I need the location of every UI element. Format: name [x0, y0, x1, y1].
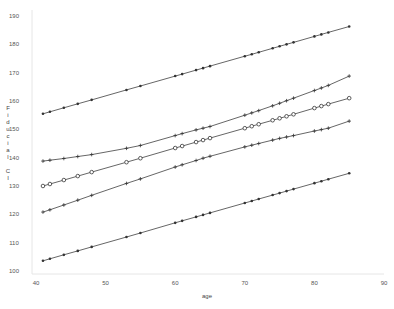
- y-tick-label: 160: [9, 98, 20, 104]
- circle-marker-icon: [243, 126, 247, 130]
- circle-marker-icon: [201, 138, 205, 142]
- dot-marker-icon: [320, 180, 323, 183]
- y-axis-title-letter: i: [7, 140, 8, 146]
- plus-marker-icon: [139, 177, 143, 181]
- circle-marker-icon: [250, 124, 254, 128]
- series-line: [43, 121, 349, 212]
- circle-marker-icon: [194, 140, 198, 144]
- plus-marker-icon: [48, 158, 52, 162]
- plus-marker-icon: [173, 165, 177, 169]
- dot-marker-icon: [250, 53, 253, 56]
- dot-marker-icon: [49, 258, 52, 261]
- plus-marker-icon: [327, 84, 331, 88]
- circle-marker-icon: [125, 160, 129, 164]
- circle-marker-icon: [257, 122, 261, 126]
- dot-marker-icon: [285, 190, 288, 193]
- circle-marker-icon: [292, 113, 296, 117]
- plus-marker-icon: [292, 96, 296, 100]
- y-tick-label: 110: [9, 240, 19, 246]
- plus-marker-icon: [62, 157, 66, 161]
- dot-marker-icon: [292, 41, 295, 44]
- dot-marker-icon: [257, 198, 260, 201]
- plus-marker-icon: [48, 208, 52, 212]
- plus-marker-icon: [194, 159, 198, 163]
- plus-marker-icon: [271, 138, 275, 142]
- dot-marker-icon: [195, 216, 198, 219]
- x-tick-label: 80: [311, 280, 318, 286]
- y-axis-title-letter: C: [6, 168, 11, 174]
- series-5: [42, 172, 351, 262]
- dot-marker-icon: [139, 85, 142, 88]
- dot-marker-icon: [76, 103, 79, 106]
- y-tick-label: 120: [9, 211, 20, 217]
- plus-marker-icon: [41, 159, 45, 163]
- y-axis-ticks: 100110120130140150160170180190: [9, 13, 20, 274]
- dot-marker-icon: [348, 172, 351, 175]
- plus-marker-icon: [76, 155, 80, 159]
- y-axis-title-letter: u: [6, 126, 9, 132]
- plus-marker-icon: [208, 154, 212, 158]
- plus-marker-icon: [208, 125, 212, 129]
- circle-marker-icon: [208, 136, 212, 140]
- fiducial-ci-chart: 100110120130140150160170180190 405060708…: [0, 0, 394, 309]
- y-axis-title-letter: i: [7, 112, 8, 118]
- plus-marker-icon: [257, 109, 261, 113]
- plus-marker-icon: [180, 163, 184, 167]
- dot-marker-icon: [174, 75, 177, 78]
- series-1: [42, 25, 351, 115]
- axes: [32, 10, 384, 274]
- dot-marker-icon: [313, 182, 316, 185]
- dot-marker-icon: [202, 67, 205, 70]
- circle-marker-icon: [48, 182, 52, 186]
- y-tick-label: 170: [9, 70, 20, 76]
- dot-marker-icon: [292, 188, 295, 191]
- dot-marker-icon: [125, 236, 128, 239]
- circle-marker-icon: [320, 104, 324, 108]
- circle-marker-icon: [278, 116, 282, 120]
- plus-marker-icon: [327, 126, 331, 130]
- y-axis-title-letter: l: [7, 154, 8, 160]
- x-tick-label: 60: [172, 280, 179, 286]
- dot-marker-icon: [285, 43, 288, 46]
- plus-marker-icon: [271, 104, 275, 108]
- plus-marker-icon: [285, 135, 289, 139]
- plus-marker-icon: [173, 134, 177, 138]
- dot-marker-icon: [348, 25, 351, 28]
- dot-marker-icon: [174, 222, 177, 225]
- dot-marker-icon: [320, 33, 323, 36]
- plus-marker-icon: [347, 119, 351, 123]
- dot-marker-icon: [327, 178, 330, 181]
- dot-marker-icon: [250, 200, 253, 203]
- series-group: [41, 25, 351, 262]
- plus-marker-icon: [62, 203, 66, 207]
- plus-marker-icon: [194, 128, 198, 132]
- dot-marker-icon: [313, 35, 316, 38]
- circle-marker-icon: [62, 178, 66, 182]
- circle-marker-icon: [271, 118, 275, 122]
- dot-marker-icon: [90, 99, 93, 102]
- x-tick-label: 90: [381, 280, 388, 286]
- plus-marker-icon: [125, 147, 129, 151]
- plus-marker-icon: [278, 101, 282, 105]
- x-tick-label: 70: [241, 280, 248, 286]
- plus-marker-icon: [292, 134, 296, 138]
- circle-marker-icon: [139, 156, 143, 160]
- circle-marker-icon: [313, 106, 317, 110]
- dot-marker-icon: [244, 202, 247, 205]
- y-axis-title-letter: d: [6, 119, 9, 125]
- plus-marker-icon: [201, 156, 205, 160]
- circle-marker-icon: [41, 184, 45, 188]
- dot-marker-icon: [257, 51, 260, 54]
- dot-marker-icon: [271, 194, 274, 197]
- y-tick-label: 150: [9, 126, 20, 132]
- plus-marker-icon: [313, 89, 317, 93]
- plus-marker-icon: [320, 128, 324, 132]
- plus-marker-icon: [201, 126, 205, 130]
- series-3: [41, 96, 351, 187]
- plus-marker-icon: [243, 145, 247, 149]
- circle-marker-icon: [285, 115, 289, 119]
- dot-marker-icon: [209, 65, 212, 68]
- y-axis-title-letter: I: [7, 175, 9, 181]
- series-2: [41, 74, 351, 163]
- dot-marker-icon: [139, 232, 142, 235]
